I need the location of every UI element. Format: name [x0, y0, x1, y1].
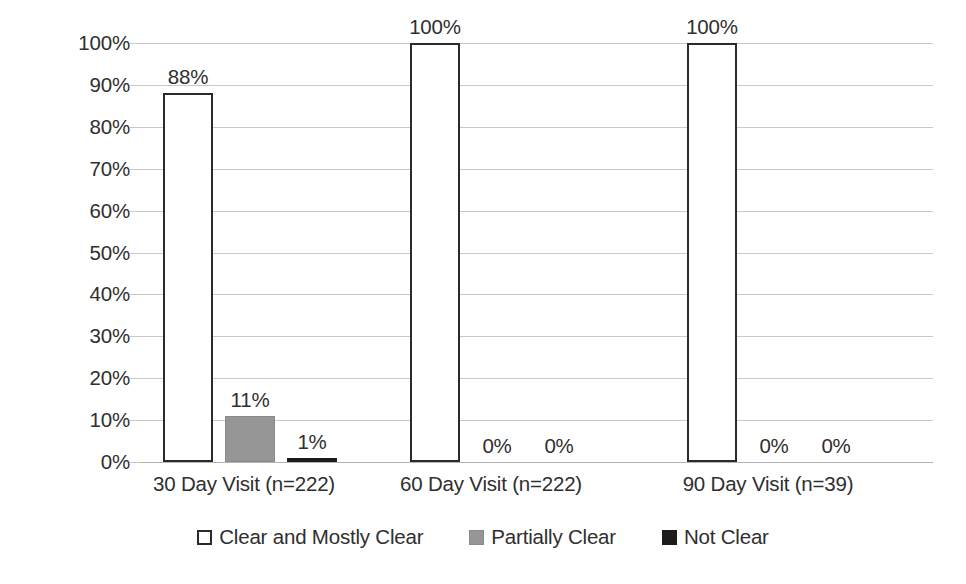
- gridline: [140, 462, 933, 463]
- y-tick-mark: [130, 211, 140, 212]
- bar[interactable]: [687, 43, 737, 462]
- legend-swatch-icon: [197, 530, 212, 545]
- plot-area: 88%11%1%100%0%0%100%0%0%: [140, 43, 933, 462]
- gridline: [140, 378, 933, 379]
- y-axis: 0%10%20%30%40%50%60%70%80%90%100%: [38, 43, 130, 462]
- bar[interactable]: [287, 458, 337, 462]
- x-axis: 30 Day Visit (n=222)60 Day Visit (n=222)…: [140, 472, 933, 506]
- y-tick-mark: [130, 420, 140, 421]
- y-tick-mark: [130, 253, 140, 254]
- x-axis-category-label: 30 Day Visit (n=222): [153, 472, 335, 496]
- bar-value-label: 0%: [791, 434, 881, 458]
- gridline: [140, 211, 933, 212]
- y-axis-tick-label: 10%: [38, 408, 130, 432]
- y-tick-mark: [130, 85, 140, 86]
- legend: Clear and Mostly ClearPartially ClearNot…: [0, 525, 966, 549]
- x-axis-category-label: 60 Day Visit (n=222): [400, 472, 582, 496]
- y-tick-mark: [130, 127, 140, 128]
- y-tick-mark: [130, 336, 140, 337]
- y-tick-mark: [130, 378, 140, 379]
- bar-value-label: 100%: [667, 15, 757, 39]
- gridline: [140, 85, 933, 86]
- legend-swatch-icon: [469, 530, 484, 545]
- bar-value-label: 0%: [514, 434, 604, 458]
- legend-swatch-icon: [662, 530, 677, 545]
- bar-chart: 88%11%1%100%0%0%100%0%0% 0%10%20%30%40%5…: [0, 0, 966, 584]
- bar[interactable]: [410, 43, 460, 462]
- y-axis-tick-label: 60%: [38, 199, 130, 223]
- y-tick-mark: [130, 294, 140, 295]
- gridline: [140, 253, 933, 254]
- bar-value-label: 88%: [143, 65, 233, 89]
- y-axis-tick-label: 80%: [38, 115, 130, 139]
- y-axis-tick-label: 100%: [38, 31, 130, 55]
- y-axis-tick-label: 20%: [38, 366, 130, 390]
- gridline: [140, 294, 933, 295]
- y-axis-tick-label: 30%: [38, 324, 130, 348]
- y-axis-tick-label: 40%: [38, 282, 130, 306]
- y-axis-tick-label: 90%: [38, 73, 130, 97]
- bar-value-label: 11%: [205, 388, 295, 412]
- legend-item[interactable]: Not Clear: [662, 525, 769, 549]
- legend-label: Partially Clear: [491, 525, 616, 549]
- gridline: [140, 169, 933, 170]
- legend-label: Clear and Mostly Clear: [219, 525, 423, 549]
- bar-value-label: 100%: [390, 15, 480, 39]
- gridline: [140, 336, 933, 337]
- legend-item[interactable]: Clear and Mostly Clear: [197, 525, 423, 549]
- legend-label: Not Clear: [684, 525, 769, 549]
- y-axis-tick-label: 50%: [38, 241, 130, 265]
- bar-value-label: 1%: [267, 430, 357, 454]
- y-tick-mark: [130, 43, 140, 44]
- gridline: [140, 43, 933, 44]
- gridline: [140, 127, 933, 128]
- x-axis-category-label: 90 Day Visit (n=39): [683, 472, 854, 496]
- y-tick-mark: [130, 462, 140, 463]
- y-axis-tick-label: 70%: [38, 157, 130, 181]
- legend-item[interactable]: Partially Clear: [469, 525, 616, 549]
- y-axis-tick-label: 0%: [38, 450, 130, 474]
- y-tick-mark: [130, 169, 140, 170]
